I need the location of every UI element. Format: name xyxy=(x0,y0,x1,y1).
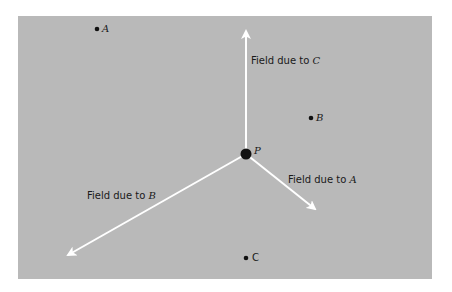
charge-c-dot xyxy=(244,256,249,261)
field-label-c: Field due to C xyxy=(251,55,320,67)
field-label-a-text: Field due to xyxy=(288,174,350,185)
field-label-b-text: Field due to xyxy=(87,190,149,201)
field-label-b: Field due to B xyxy=(87,190,156,202)
field-label-b-source: B xyxy=(149,190,156,201)
charge-b-dot xyxy=(309,116,314,121)
field-label-a-source: A xyxy=(350,174,357,185)
charge-c-label: C xyxy=(252,252,259,264)
point-p-dot xyxy=(241,149,252,160)
point-p-label: P xyxy=(254,145,261,157)
field-label-c-text: Field due to xyxy=(251,55,313,66)
charge-a-label: A xyxy=(102,23,109,35)
charge-a-dot xyxy=(95,27,100,32)
field-arrow-b xyxy=(68,154,246,255)
charge-b-label: B xyxy=(316,112,323,124)
field-label-a: Field due to A xyxy=(288,174,357,186)
field-label-c-source: C xyxy=(313,55,321,66)
field-diagram xyxy=(0,0,452,292)
